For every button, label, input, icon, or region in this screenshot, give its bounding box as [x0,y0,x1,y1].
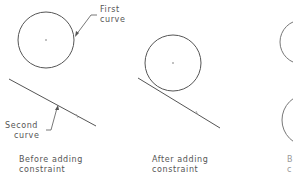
diagram-canvas [0,0,293,177]
caption-line: constraint [19,165,83,175]
center-point [172,62,173,63]
center-point [45,39,46,40]
first-curve-leader [76,15,97,35]
second-curve-leader [46,108,57,130]
label-line: curve [100,15,125,25]
caption-line: Before adding [19,155,83,165]
caption-line: c [287,165,293,175]
label-line: First [100,5,125,15]
after-caption: After adding constraint [152,155,208,175]
second-curve-label: Second curve [5,121,45,141]
third-caption-cropped: B c [287,155,293,175]
caption-line: B [287,155,293,165]
label-line: Second [5,121,45,131]
partial-circle-top [280,20,293,64]
caption-line: constraint [152,165,208,175]
caption-line: After adding [152,155,208,165]
tangent-line [138,78,220,128]
second-curve-line [9,79,96,126]
label-line: curve [5,131,45,141]
partial-circle-bottom [282,94,293,146]
first-curve-label: First curve [100,5,125,25]
before-caption: Before adding constraint [19,155,83,175]
